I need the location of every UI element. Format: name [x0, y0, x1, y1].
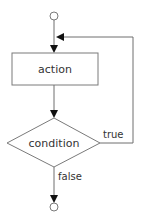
action-label: action: [38, 63, 72, 76]
arrowhead-into-condition: [50, 110, 58, 118]
arrowhead-into-end: [50, 195, 58, 203]
start-node: [50, 12, 58, 20]
arrowhead-loop-return: [56, 33, 64, 41]
end-node: [50, 203, 58, 211]
flowchart: action condition true false: [0, 0, 141, 217]
condition-label: condition: [29, 137, 80, 150]
false-label: false: [58, 171, 82, 182]
arrowhead-into-action: [50, 45, 58, 53]
true-label: true: [103, 129, 124, 140]
